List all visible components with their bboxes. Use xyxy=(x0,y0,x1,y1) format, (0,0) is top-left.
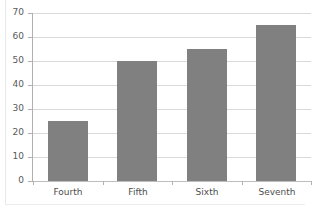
x-axis-tick xyxy=(311,181,312,185)
y-axis-tick xyxy=(28,85,32,86)
x-axis-tick xyxy=(33,181,34,185)
y-axis-tick xyxy=(28,157,32,158)
chart-title-remnant xyxy=(30,0,300,3)
x-axis-tick-label: Fourth xyxy=(33,187,103,197)
x-axis-tick-label: Fifth xyxy=(103,187,173,197)
y-axis-tick-label: 0 xyxy=(0,176,24,185)
plot-area xyxy=(33,13,311,181)
bar xyxy=(48,121,88,181)
y-axis-tick xyxy=(28,181,32,182)
x-axis-tick xyxy=(172,181,173,185)
gridline xyxy=(33,13,311,14)
y-axis-tick xyxy=(28,37,32,38)
y-axis-tick-label: 20 xyxy=(0,128,24,137)
bar xyxy=(187,49,227,181)
y-axis-tick xyxy=(28,13,32,14)
y-axis-tick-label: 30 xyxy=(0,104,24,113)
y-axis-tick-label: 50 xyxy=(0,56,24,65)
y-axis-tick-label: 40 xyxy=(0,80,24,89)
x-axis-tick-label: Seventh xyxy=(242,187,312,197)
x-axis-tick-label: Sixth xyxy=(172,187,242,197)
bar xyxy=(256,25,296,181)
y-axis-tick xyxy=(28,61,32,62)
chart-frame-left-border xyxy=(5,0,6,205)
x-axis-tick xyxy=(242,181,243,185)
y-axis-tick xyxy=(28,109,32,110)
y-axis-tick-label: 60 xyxy=(0,32,24,41)
y-axis-tick xyxy=(28,133,32,134)
y-axis-tick-label: 10 xyxy=(0,152,24,161)
x-axis-tick xyxy=(103,181,104,185)
chart-frame-bottom-border xyxy=(5,204,305,205)
y-axis-tick-label: 70 xyxy=(0,8,24,17)
bar xyxy=(117,61,157,181)
bar-chart: 010203040506070 FourthFifthSixthSeventh xyxy=(0,0,319,212)
